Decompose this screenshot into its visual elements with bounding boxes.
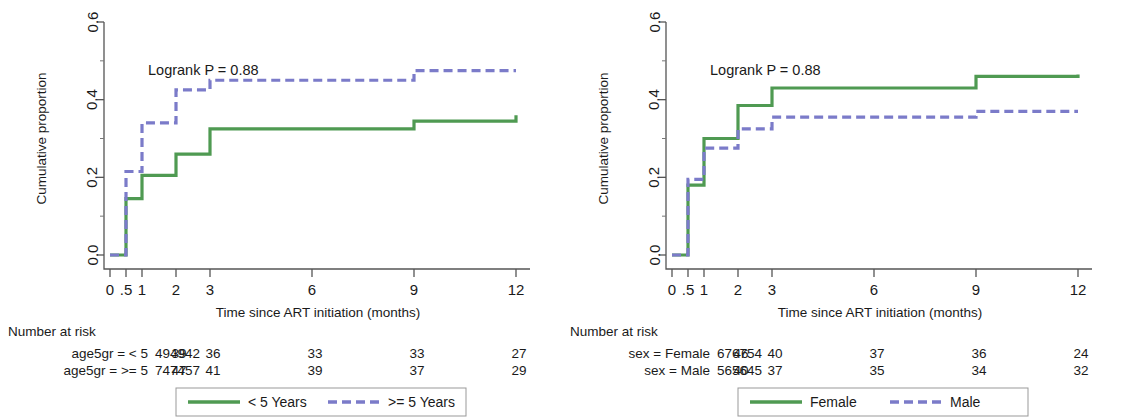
- legend-label: >= 5 Years: [388, 394, 455, 410]
- risk-row-value: 33: [307, 346, 322, 361]
- risk-row-value: 29: [511, 363, 526, 378]
- y-tick-label: 0.2: [646, 167, 663, 188]
- y-axis-title: Cumulative proportion: [596, 72, 611, 204]
- curve-dashed: [672, 111, 1078, 255]
- y-axis-ticks: 0.00.20.40.6: [84, 12, 105, 266]
- survival-plot-sex: 0.00.20.40.6Cumulative proportion0.51236…: [562, 0, 1125, 418]
- risk-row-value: 37: [409, 363, 424, 378]
- figure-panels: 0.00.20.40.6Cumulative proportion0.51236…: [0, 0, 1125, 418]
- risk-row-value: 24: [1073, 346, 1089, 361]
- risk-row-value: 35: [869, 363, 884, 378]
- risk-row-value: 37: [767, 363, 782, 378]
- x-tick-label: 0: [668, 281, 676, 298]
- risk-row-value: 47: [171, 363, 186, 378]
- plot-legend: FemaleMale: [738, 388, 1028, 416]
- y-tick-label: 0.4: [84, 89, 101, 110]
- risk-row-value: 36: [971, 346, 986, 361]
- legend-label: Female: [810, 394, 857, 410]
- x-tick-label: 3: [206, 281, 214, 298]
- x-axis-title: Time since ART initiation (months): [216, 305, 421, 320]
- panel-age-group: 0.00.20.40.6Cumulative proportion0.51236…: [0, 0, 562, 418]
- x-tick-label: .5: [682, 281, 695, 298]
- plot-axes: [104, 22, 530, 269]
- legend-label: Male: [950, 394, 981, 410]
- risk-table-title: Number at risk: [570, 324, 658, 339]
- curve-dashed: [110, 71, 516, 255]
- x-tick-label: .5: [120, 281, 133, 298]
- y-axis-title: Cumulative proportion: [34, 72, 49, 204]
- x-tick-label: 9: [972, 281, 980, 298]
- risk-row-label: age5gr = >= 5: [64, 363, 148, 378]
- risk-row-label: sex = Male: [644, 363, 710, 378]
- risk-row-value: 40: [767, 346, 782, 361]
- y-tick-label: 0.0: [646, 245, 663, 266]
- risk-table-title: Number at risk: [8, 324, 96, 339]
- curve-solid: [110, 115, 516, 255]
- risk-row-label: age5gr = < 5: [71, 346, 148, 361]
- risk-row-value: 27: [511, 346, 526, 361]
- number-at-risk-table: Number at risksex = Female67675446403736…: [570, 324, 1089, 378]
- y-tick-label: 0.0: [84, 245, 101, 266]
- risk-row-value: 46: [733, 346, 748, 361]
- risk-row-value: 33: [409, 346, 424, 361]
- x-axis-title: Time since ART initiation (months): [778, 305, 983, 320]
- risk-row-value: 39: [307, 363, 322, 378]
- risk-row-value: 34: [971, 363, 987, 378]
- x-tick-label: 2: [734, 281, 742, 298]
- legend-label: < 5 Years: [248, 394, 307, 410]
- plot-axes: [666, 22, 1092, 269]
- risk-row-value: 40: [733, 363, 748, 378]
- logrank-annotation: Logrank P = 0.88: [710, 62, 821, 78]
- y-tick-label: 0.4: [646, 89, 663, 110]
- y-tick-label: 0.2: [84, 167, 101, 188]
- x-tick-label: 9: [410, 281, 418, 298]
- y-tick-label: 0.6: [84, 12, 101, 33]
- x-tick-label: 0: [106, 281, 114, 298]
- curve-solid: [672, 74, 1078, 255]
- x-tick-label: 1: [138, 281, 146, 298]
- risk-row-value: 41: [205, 363, 220, 378]
- y-tick-label: 0.6: [646, 12, 663, 33]
- number-at-risk-table: Number at riskage5gr = < 549494239363333…: [8, 324, 527, 378]
- x-tick-label: 2: [172, 281, 180, 298]
- x-tick-label: 12: [508, 281, 525, 298]
- x-axis-ticks: 0.51236912: [106, 269, 525, 298]
- plot-legend: < 5 Years>= 5 Years: [176, 388, 466, 416]
- curves-group: [110, 71, 516, 255]
- risk-row-label: sex = Female: [629, 346, 710, 361]
- x-tick-label: 3: [768, 281, 776, 298]
- x-axis-ticks: 0.51236912: [668, 269, 1087, 298]
- logrank-annotation: Logrank P = 0.88: [148, 62, 259, 78]
- axis-lines: [104, 22, 530, 269]
- panel-sex: 0.00.20.40.6Cumulative proportion0.51236…: [562, 0, 1125, 418]
- risk-row-value: 37: [869, 346, 884, 361]
- risk-row-value: 32: [1073, 363, 1088, 378]
- x-tick-label: 6: [870, 281, 878, 298]
- risk-row-value: 39: [171, 346, 186, 361]
- axis-lines: [666, 22, 1092, 269]
- survival-plot-age-group: 0.00.20.40.6Cumulative proportion0.51236…: [0, 0, 562, 418]
- y-axis-ticks: 0.00.20.40.6: [646, 12, 667, 266]
- risk-row-value: 36: [205, 346, 220, 361]
- x-tick-label: 6: [308, 281, 316, 298]
- x-tick-label: 1: [700, 281, 708, 298]
- curves-group: [672, 74, 1078, 255]
- x-tick-label: 12: [1070, 281, 1087, 298]
